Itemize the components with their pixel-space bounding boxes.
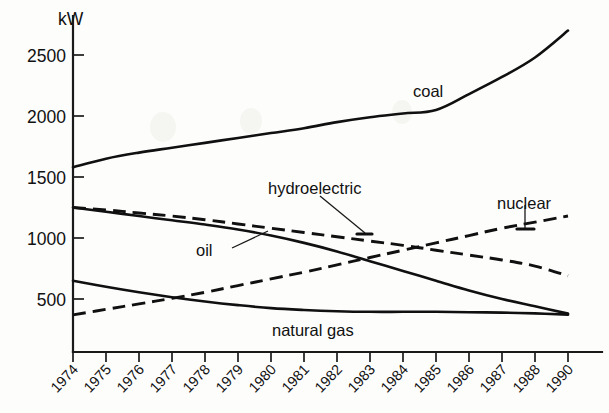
x-tick-label: 1984 [377, 361, 411, 396]
chart-canvas: kW 2500 2000 1500 1000 500 [0, 0, 609, 413]
x-tick-label: 1974 [47, 361, 81, 396]
x-tick-label: 1978 [179, 361, 213, 396]
hydroelectric-leader-line [320, 196, 365, 233]
x-tick-label: 1975 [80, 361, 114, 396]
x-tick-label: 1986 [443, 361, 477, 396]
x-tick-label: 1980 [245, 361, 279, 396]
annotation-leaders [232, 196, 534, 248]
x-tick-label: 1981 [278, 361, 312, 396]
series-line-coal [73, 31, 568, 168]
series-line-oil [73, 208, 568, 314]
y-axis-ticks [73, 55, 84, 299]
x-axis-ticks [73, 352, 568, 362]
oil-leader-line [232, 231, 268, 248]
x-tick-label: 1983 [344, 361, 378, 396]
x-tick-label: 1990 [542, 361, 576, 396]
x-tick-label: 1976 [113, 361, 147, 396]
series-lines [73, 31, 568, 315]
x-tick-label: 1977 [146, 361, 180, 396]
y-tick-label-1000: 1000 [27, 229, 66, 249]
series-label-hydroelectric: hydroelectric [268, 179, 362, 197]
x-tick-label: 1985 [410, 361, 444, 396]
series-label-coal: coal [413, 82, 443, 100]
y-tick-label-500: 500 [37, 290, 66, 310]
series-label-nuclear: nuclear [497, 194, 552, 212]
series-label-natural-gas: natural gas [272, 321, 354, 339]
y-tick-label-2500: 2500 [27, 46, 66, 66]
series-label-oil: oil [196, 241, 213, 259]
y-axis-unit-label: kW [58, 9, 84, 29]
y-tick-label-2000: 2000 [27, 107, 66, 127]
x-tick-label: 1987 [476, 361, 510, 396]
x-axis-tick-labels: 1974 1975 1976 1977 1978 1979 1980 1981 … [47, 361, 576, 396]
x-tick-label: 1982 [311, 361, 345, 396]
x-tick-label: 1979 [212, 361, 246, 396]
x-tick-label: 1988 [509, 361, 543, 396]
energy-source-line-chart: kW 2500 2000 1500 1000 500 [0, 0, 609, 413]
y-tick-label-1500: 1500 [27, 168, 66, 188]
series-line-nuclear [73, 216, 568, 315]
